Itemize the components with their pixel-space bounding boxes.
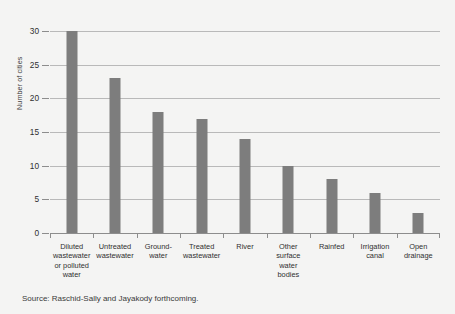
bar [283, 166, 294, 233]
y-tick-label-5: 5 [34, 194, 39, 204]
y-tick-label-15: 15 [30, 127, 39, 137]
y-tick-mark-20 [42, 98, 49, 99]
x-tick-mark [223, 233, 224, 238]
bar [196, 119, 207, 233]
bar-slot [223, 31, 266, 233]
x-axis-label: Othersurfacewaterbodies [267, 233, 310, 293]
bar [153, 112, 164, 233]
x-axis-label: Treatedwastewater [180, 233, 223, 293]
x-axis-label-line: River [223, 242, 266, 251]
y-tick-label-20: 20 [30, 93, 39, 103]
x-axis-label-line: Untreated [93, 242, 136, 251]
source-note: Source: Raschid-Sally and Jayakody forth… [22, 294, 199, 303]
bar-slot [137, 31, 180, 233]
x-tick-mark [267, 233, 268, 238]
figure-bar-chart: Number of cities 051015202530 Dilutedwas… [0, 0, 455, 314]
x-tick-mark [180, 233, 181, 238]
x-axis-label-line: or polluted [50, 261, 93, 270]
bar [369, 193, 380, 233]
x-axis-label: River [223, 233, 266, 293]
bar-slot [50, 31, 93, 233]
plot-area: 051015202530 [50, 31, 440, 233]
x-tick-mark [353, 233, 354, 238]
x-axis-label-line: water [50, 270, 93, 279]
x-axis-label-line: drainage [397, 251, 440, 260]
x-axis-label-line: wastewater [50, 251, 93, 260]
x-tick-mark [50, 233, 51, 238]
y-tick-mark-30 [42, 31, 49, 32]
x-axis-labels-group: Dilutedwastewateror pollutedwaterUntreat… [50, 233, 440, 293]
x-tick-mark [439, 233, 440, 238]
x-axis-label-line: surface [267, 251, 310, 260]
y-tick-mark-10 [42, 166, 49, 167]
y-tick-mark-25 [42, 65, 49, 66]
x-tick-mark [93, 233, 94, 238]
x-tick-mark [397, 233, 398, 238]
bar-slot [353, 31, 396, 233]
bar-slot [267, 31, 310, 233]
x-axis-label-line: water [137, 251, 180, 260]
x-axis-label-line: Treated [180, 242, 223, 251]
y-tick-label-0: 0 [34, 228, 39, 238]
y-tick-label-30: 30 [30, 26, 39, 36]
bar-slot [397, 31, 440, 233]
bar [109, 78, 120, 233]
x-axis-label-line: wastewater [93, 251, 136, 260]
bar-slot [310, 31, 353, 233]
bar [413, 213, 424, 233]
x-axis-label: Dilutedwastewateror pollutedwater [50, 233, 93, 293]
x-tick-mark [310, 233, 311, 238]
y-tick-label-25: 25 [30, 60, 39, 70]
bar-slot [93, 31, 136, 233]
y-tick-mark-5 [42, 199, 49, 200]
x-axis-label-line: bodies [267, 270, 310, 279]
bar [66, 31, 77, 233]
bar-slot [180, 31, 223, 233]
y-tick-mark-15 [42, 132, 49, 133]
x-axis-label-line: Open [397, 242, 440, 251]
x-tick-mark [137, 233, 138, 238]
x-axis-label-line: water [267, 261, 310, 270]
x-axis-label: Irrigationcanal [353, 233, 396, 293]
x-axis-label-line: Other [267, 242, 310, 251]
x-axis-label: Opendrainage [397, 233, 440, 293]
x-axis-label-line: wastewater [180, 251, 223, 260]
x-axis-label-line: Diluted [50, 242, 93, 251]
y-tick-label-10: 10 [30, 161, 39, 171]
x-axis-label-line: canal [353, 251, 396, 260]
bars-group [50, 31, 440, 233]
x-axis-label: Rainfed [310, 233, 353, 293]
x-axis-label: Ground-water [137, 233, 180, 293]
x-axis-label-line: Rainfed [310, 242, 353, 251]
bar [239, 139, 250, 233]
y-tick-mark-0 [42, 233, 49, 234]
x-axis-label: Untreatedwastewater [93, 233, 136, 293]
bar [326, 179, 337, 233]
x-axis-label-line: Ground- [137, 242, 180, 251]
x-axis-label-line: Irrigation [353, 242, 396, 251]
